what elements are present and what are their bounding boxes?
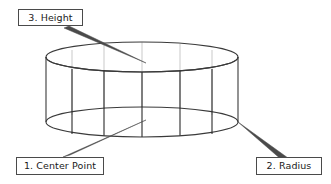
cylinder-diagram: 3. Height 1. Center Point 2. Radius xyxy=(0,0,331,184)
callout-height-label: 3. Height xyxy=(28,13,72,23)
callout-radius[interactable]: 2. Radius xyxy=(256,157,322,175)
height-leader-arrow xyxy=(64,26,146,63)
front-vertical-rules xyxy=(72,69,212,137)
callout-height[interactable]: 3. Height xyxy=(18,9,83,26)
callout-center-point[interactable]: 1. Center Point xyxy=(16,157,104,175)
callout-radius-label: 2. Radius xyxy=(267,161,312,171)
radius-leader-arrow xyxy=(238,122,288,161)
callout-center-point-label: 1. Center Point xyxy=(24,161,96,171)
